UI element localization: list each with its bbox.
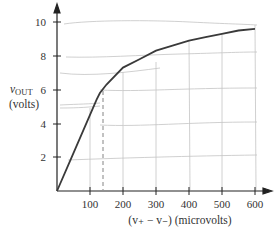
sketch-lines <box>60 21 257 190</box>
x-axis-label: (v₊ − v₋) (microvolts) <box>128 214 231 227</box>
y-tick-label: 10 <box>35 16 47 28</box>
chart: 2 4 6 8 10 100 200 300 400 500 600 vOUT … <box>0 0 277 236</box>
x-tick-label: 200 <box>115 198 132 210</box>
y-tick-label: 8 <box>41 50 47 62</box>
axes <box>54 4 272 194</box>
y-tick-label: 4 <box>41 118 47 130</box>
y-axis-units: (volts) <box>9 98 39 111</box>
y-tick-label: 2 <box>41 151 47 163</box>
y-axis-label: vOUT <box>10 83 33 97</box>
x-tick-label: 500 <box>214 198 231 210</box>
y-tick-label: 6 <box>41 84 47 96</box>
x-tick-label: 100 <box>82 198 99 210</box>
x-tick-label: 400 <box>181 198 198 210</box>
x-tick-label: 300 <box>148 198 165 210</box>
x-tick-label: 600 <box>247 198 264 210</box>
